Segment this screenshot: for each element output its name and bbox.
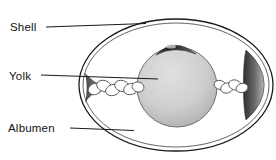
yolk-circle xyxy=(137,47,217,127)
germinal-disc-highlight xyxy=(166,45,176,49)
egg-diagram-canvas: Shell Yolk Albumen xyxy=(0,0,276,160)
shell-label: Shell xyxy=(10,21,37,33)
albumen-label: Albumen xyxy=(8,122,55,134)
yolk-label: Yolk xyxy=(9,70,31,82)
egg-diagram: Shell Yolk Albumen xyxy=(0,0,276,160)
